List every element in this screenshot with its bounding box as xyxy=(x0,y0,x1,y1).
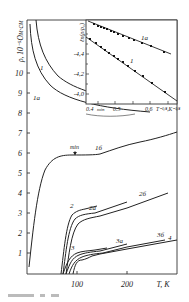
y-tick-4: 4 xyxy=(18,189,22,198)
inset-x-tick-0-4: 0.4 xyxy=(86,106,94,112)
y-tick-1: 1 xyxy=(18,249,22,258)
label-3b: 3б xyxy=(156,231,165,239)
inset-x-tick-0-6: 0.6 xyxy=(145,106,153,112)
inset-y-tick-4-2: -4,2 xyxy=(74,70,85,77)
inset-x-axis-label: T⁻¹/⁴,K⁻¹/⁴ xyxy=(156,106,180,112)
label-2a: 2a xyxy=(89,204,97,212)
curve-4 xyxy=(73,240,177,274)
label-1b: 1б xyxy=(95,144,103,152)
inset-label-1: 1 xyxy=(130,57,134,65)
figure-caption-placeholder xyxy=(8,294,178,298)
inset-x-tick-0-5: 0.5 xyxy=(113,106,121,112)
label-2b: 2б xyxy=(139,190,147,198)
inset-y-tick-4-0: -4,0 xyxy=(74,90,85,97)
y-tick-2: 2 xyxy=(18,229,22,238)
resistivity-chart: 1 2 3 4 5 6 7 8 9 10 ρ, 10⁻⁵Ом·см 100 20… xyxy=(0,0,189,302)
label-1: 1 xyxy=(40,64,44,72)
label-3: 3 xyxy=(70,244,75,252)
y-tick-8: 8 xyxy=(18,109,22,118)
label-3a: 3a xyxy=(115,237,124,245)
x-tick-200: 200 xyxy=(121,280,133,289)
label-4: 4 xyxy=(168,234,172,242)
label-1a: 1a xyxy=(33,94,41,102)
inset-label-1a: 1a xyxy=(141,34,149,42)
y-tick-9: 9 xyxy=(18,89,22,98)
y-tick-10: 10 xyxy=(15,69,23,78)
inset-min-label: min xyxy=(97,107,105,112)
min-label: min xyxy=(70,144,79,150)
inset-y-axis-label: ℓn(ρ/ρ₀) xyxy=(79,23,86,42)
y-tick-3: 3 xyxy=(17,209,22,218)
y-axis-label: ρ, 10⁻⁵Ом·см xyxy=(16,20,25,63)
curve-1b xyxy=(29,132,177,267)
inset-y-tick-4-4: -4,4 xyxy=(74,50,85,57)
curve-3a xyxy=(66,244,127,274)
min-marker: min xyxy=(70,144,79,155)
x-axis-label: T, K xyxy=(156,280,170,289)
y-tick-labels: 1 2 3 4 5 6 7 8 9 10 xyxy=(15,69,23,258)
y-tick-6: 6 xyxy=(18,149,22,158)
y-tick-7: 7 xyxy=(18,129,23,138)
y-tick-5: 5 xyxy=(18,169,22,178)
label-2: 2 xyxy=(70,202,74,210)
x-tick-100: 100 xyxy=(71,280,83,289)
inset-chart: -4,0 -4,2 -4,4 ℓn(ρ/ρ₀) 0.4 min 0.5 0.6 … xyxy=(74,20,181,116)
